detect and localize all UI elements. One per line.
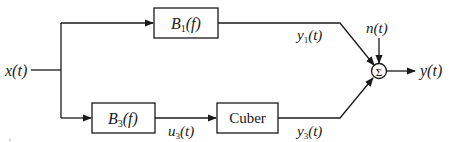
svg-text:B3(f): B3(f)	[108, 110, 138, 129]
summing-junction: Σ	[372, 64, 387, 79]
b1-name: B	[171, 15, 181, 32]
block-cuber: Cuber	[217, 103, 278, 133]
stray-dot	[9, 139, 11, 141]
svg-text:B1(f): B1(f)	[171, 15, 201, 34]
cuber-label: Cuber	[229, 110, 266, 126]
y1-path	[218, 23, 374, 65]
input-label: x(t)	[4, 62, 27, 80]
b3-name: B	[108, 110, 118, 127]
block-diagram: x(t) B1(f) B3(f) u3(t) Cuber y1(t) y3(t)…	[0, 0, 451, 142]
y3-label: y3(t)	[295, 123, 322, 141]
y1-label: y1(t)	[295, 27, 322, 45]
block-b1: B1(f)	[154, 8, 218, 38]
sigma-symbol: Σ	[376, 66, 382, 78]
u3-label: u3(t)	[168, 123, 194, 141]
noise-label: n(t)	[366, 20, 388, 37]
output-label: y(t)	[418, 62, 442, 80]
y3-path	[278, 78, 373, 118]
block-b3: B3(f)	[92, 103, 155, 133]
